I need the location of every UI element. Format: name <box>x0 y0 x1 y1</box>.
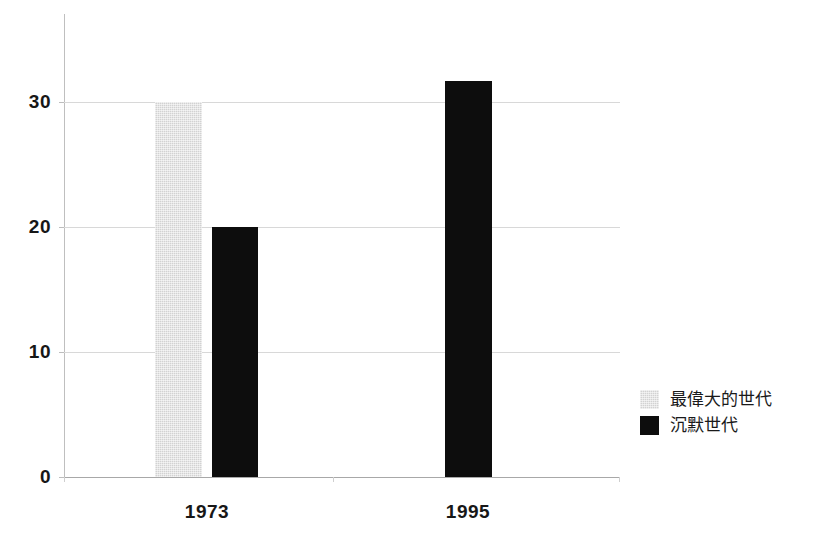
y-tick-label-30: 30 <box>29 91 51 113</box>
gridline-20 <box>64 227 620 228</box>
legend-swatch-icon-greatest-generation <box>640 390 659 409</box>
y-tick-label-0: 0 <box>40 466 51 488</box>
x-minor-tick-middle <box>333 477 334 482</box>
x-tick-label-1995: 1995 <box>446 501 490 523</box>
tick-mark-20 <box>59 227 64 228</box>
x-tick-label-1973: 1973 <box>185 501 229 523</box>
tick-mark-30 <box>59 102 64 103</box>
bar-1973-silent-generation[interactable] <box>212 227 258 477</box>
bar-1995-silent-generation[interactable] <box>445 81 492 477</box>
tick-mark-10 <box>59 352 64 353</box>
legend-label-silent-generation: 沉默世代 <box>670 416 738 435</box>
y-tick-label-10: 10 <box>29 341 51 363</box>
chart-legend: 最偉大的世代 沉默世代 <box>640 386 772 438</box>
y-tick-label-20: 20 <box>29 216 51 238</box>
y-axis-line <box>64 14 65 477</box>
legend-item-silent-generation[interactable]: 沉默世代 <box>640 412 772 438</box>
gridline-10 <box>64 352 620 353</box>
gridline-30 <box>64 102 620 103</box>
x-axis-line <box>64 477 620 478</box>
legend-item-greatest-generation[interactable]: 最偉大的世代 <box>640 386 772 412</box>
plot-area: 30 20 10 0 1973 1995 <box>64 14 620 477</box>
bar-chart: 30 20 10 0 1973 1995 <box>0 0 820 544</box>
legend-label-greatest-generation: 最偉大的世代 <box>670 390 772 409</box>
legend-swatch-icon-silent-generation <box>640 416 659 435</box>
x-minor-tick-left <box>64 477 65 482</box>
bar-1973-greatest-generation[interactable] <box>155 102 202 477</box>
x-minor-tick-right <box>619 477 620 482</box>
